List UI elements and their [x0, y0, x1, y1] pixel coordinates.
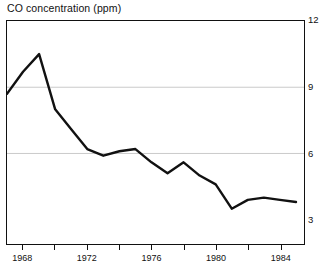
x-tick-mark-1974 [119, 245, 120, 250]
x-tick-label-1968: 1968 [12, 253, 32, 263]
x-tick-mark-1984 [281, 245, 282, 250]
y-tick-label-9: 9 [308, 82, 313, 92]
x-tick-mark-1972 [87, 245, 88, 250]
x-tick-label-1976: 1976 [141, 253, 161, 263]
x-tick-mark-1980 [216, 245, 217, 250]
plot-area [6, 20, 305, 245]
chart-title: CO concentration (ppm) [7, 2, 121, 15]
chart-figure: CO concentration (ppm) 12963 19681972197… [0, 0, 324, 272]
plot-svg [7, 21, 304, 244]
x-tick-mark-1982 [248, 245, 249, 250]
data-series-group [7, 54, 296, 209]
x-tick-mark-1970 [54, 245, 55, 250]
x-tick-label-1984: 1984 [271, 253, 291, 263]
y-tick-label-6: 6 [308, 149, 313, 159]
x-tick-mark-1978 [184, 245, 185, 250]
y-tick-label-3: 3 [308, 215, 313, 225]
x-tick-mark-1976 [151, 245, 152, 250]
x-tick-mark-1968 [22, 245, 23, 250]
x-tick-label-1980: 1980 [206, 253, 226, 263]
x-axis-tick-marks [0, 245, 324, 253]
data-line-0 [7, 54, 296, 209]
x-tick-label-1972: 1972 [77, 253, 97, 263]
y-tick-label-12: 12 [308, 15, 319, 25]
